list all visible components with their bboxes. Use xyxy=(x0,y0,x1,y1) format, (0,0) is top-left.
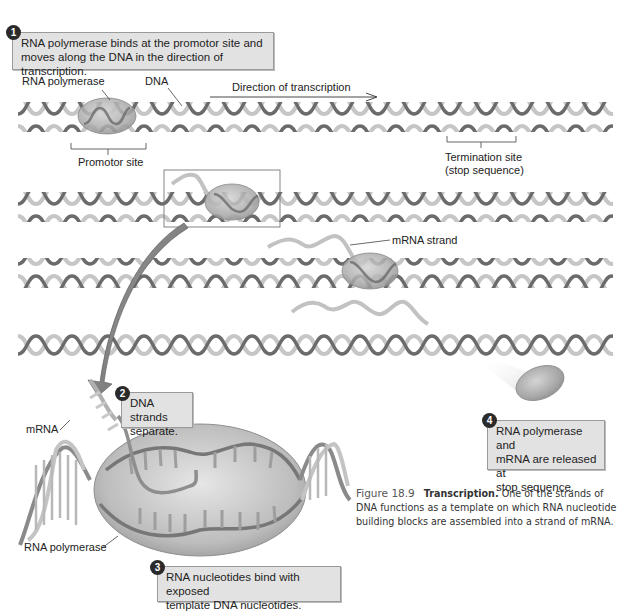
step-2-line-1: DNA strands xyxy=(130,396,186,424)
step-4-callout: RNA polymerase and mRNA are released at … xyxy=(487,420,605,470)
figure-caption: Figure 18.9 Transcription. One of the st… xyxy=(356,486,626,529)
label-termination-site: Termination site xyxy=(445,151,522,163)
released-polymerase xyxy=(511,359,569,407)
label-direction-of-transcription: Direction of transcription xyxy=(232,81,351,93)
released-mrna xyxy=(292,302,428,324)
label-stop-sequence: (stop sequence) xyxy=(445,164,524,176)
step-1-callout: RNA polymerase binds at the promotor sit… xyxy=(12,32,274,70)
step-2-badge: 2 xyxy=(115,386,130,401)
step-1-line-2: moves along the DNA in the direction of … xyxy=(21,50,267,78)
step-1-line-1: RNA polymerase binds at the promotor sit… xyxy=(21,36,267,50)
label-dna: DNA xyxy=(145,75,168,87)
label-mrna-detail: mRNA xyxy=(26,423,58,435)
step-2-callout: DNA strands separate. xyxy=(121,392,193,428)
step-4-line-2: mRNA are released at xyxy=(496,452,598,480)
dna-helix-row-3 xyxy=(18,236,613,289)
step-4-badge: 4 xyxy=(482,413,497,428)
step-4-line-1: RNA polymerase and xyxy=(496,424,598,452)
step-3-badge: 3 xyxy=(150,560,165,575)
step-2-line-2: separate. xyxy=(130,424,186,438)
zoom-arrow xyxy=(88,223,188,396)
step-1-badge: 1 xyxy=(6,25,21,40)
figure-number: Figure 18.9 xyxy=(356,487,415,499)
label-rna-polymerase-detail: RNA polymerase xyxy=(24,541,107,553)
dna-helix-row-1 xyxy=(18,88,613,155)
step-3-callout: RNA nucleotides bind with exposed templa… xyxy=(157,566,341,602)
step-3-line-2: template DNA nucleotides. xyxy=(166,598,334,612)
dna-helix-row-2 xyxy=(18,170,613,227)
label-promotor-site: Promotor site xyxy=(78,156,143,168)
label-mrna-strand: mRNA strand xyxy=(392,234,457,246)
step-3-line-1: RNA nucleotides bind with exposed xyxy=(166,570,334,598)
label-rna-polymerase-top: RNA polymerase xyxy=(22,75,105,87)
figure-title: Transcription. xyxy=(424,488,499,499)
